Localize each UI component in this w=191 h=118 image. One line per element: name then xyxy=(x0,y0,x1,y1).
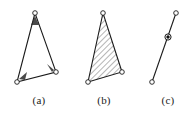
mechanics-figure: (a) (b) (c) xyxy=(0,0,191,118)
gusset-a-lower-left xyxy=(19,72,27,80)
joint-c-upper-end-icon xyxy=(174,11,179,16)
joint-c-lower-end-icon xyxy=(150,80,155,85)
caption-b: (b) xyxy=(84,93,124,107)
panel-a-triangle xyxy=(15,11,59,85)
rod-c-line xyxy=(152,13,176,82)
triangle-b-hatch-fill xyxy=(88,13,122,82)
joint-a-lower-right-icon xyxy=(54,70,59,75)
joint-b-lower-right-icon xyxy=(120,70,125,75)
caption-row: (a) (b) (c) xyxy=(0,93,191,113)
joint-b-apex-icon xyxy=(101,11,106,16)
panel-c-rod xyxy=(150,11,179,85)
caption-a: (a) xyxy=(19,93,59,107)
caption-c: (c) xyxy=(148,93,188,107)
joint-c-mid-pin-icon xyxy=(166,35,169,38)
joint-b-lower-left-icon xyxy=(86,80,91,85)
joint-a-lower-left-icon xyxy=(15,80,20,85)
gusset-a-lower-right xyxy=(47,64,54,72)
joint-a-apex-icon xyxy=(33,11,38,16)
panel-b-triangle xyxy=(86,11,125,85)
